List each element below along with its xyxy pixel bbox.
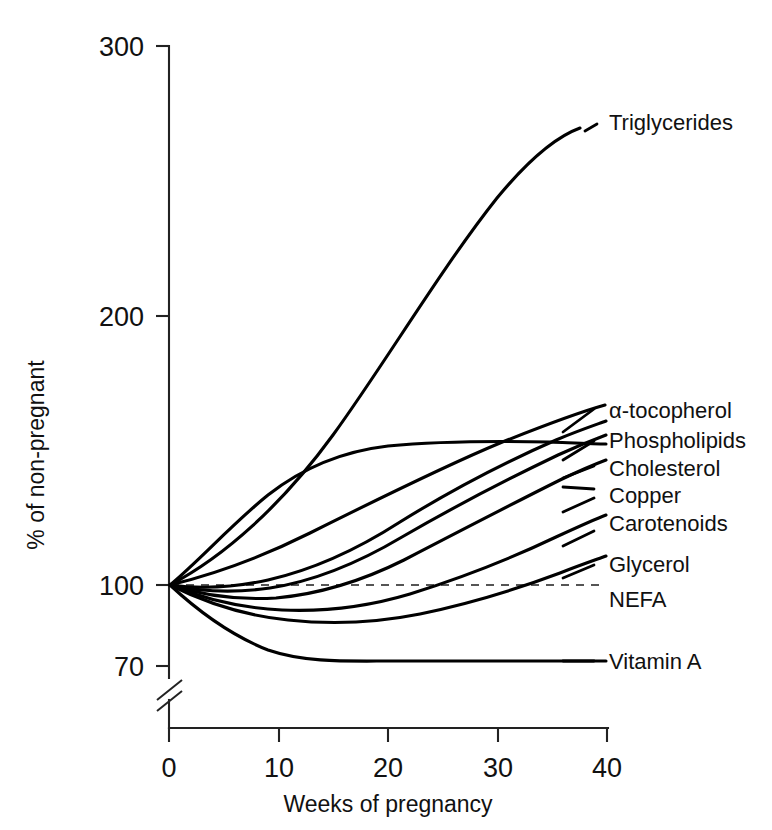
y-axis-title: % of non-pregnant [23, 360, 49, 550]
series-label-nefa: NEFA [609, 587, 667, 612]
x-axis-title: Weeks of pregnancy [283, 791, 493, 817]
series-label-carotenoids: Carotenoids [609, 511, 728, 536]
x-tick-label-40: 40 [592, 753, 622, 783]
series-label-cholesterol: Cholesterol [609, 456, 720, 481]
series-label-vitamin-a: Vitamin A [609, 649, 702, 674]
y-tick-label-100: 100 [99, 571, 144, 601]
leader-triglycerides [585, 124, 597, 131]
series-label-glycerol: Glycerol [609, 552, 690, 577]
series-curves [170, 128, 606, 661]
y-tick-label-200: 200 [99, 302, 144, 332]
y-tick-label-70: 70 [114, 652, 144, 682]
y-tick-label-300: 300 [99, 32, 144, 62]
series-label-group: Triglycerides α-tocopherol Phospholipids… [609, 110, 746, 674]
curve-tocopherol [170, 405, 605, 585]
curve-triglycerides [170, 128, 580, 585]
x-tick-label-0: 0 [161, 753, 176, 783]
leader-cholesterol [563, 466, 594, 478]
leader-copper [563, 487, 594, 489]
series-label-triglycerides: Triglycerides [609, 110, 733, 135]
x-tick-label-10: 10 [264, 753, 294, 783]
series-label-copper: Copper [609, 483, 681, 508]
line-chart: 300 200 100 70 0 10 20 30 40 Weeks of pr… [0, 0, 772, 830]
leader-carotenoids [563, 498, 594, 512]
figure-container: 300 200 100 70 0 10 20 30 40 Weeks of pr… [0, 0, 772, 830]
x-tick-label-30: 30 [483, 753, 513, 783]
label-leader-lines [563, 124, 597, 661]
series-label-phospholipids: Phospholipids [609, 428, 746, 453]
axis-group [156, 46, 608, 742]
x-tick-label-20: 20 [373, 753, 403, 783]
series-label-tocopherol: α-tocopherol [609, 398, 732, 423]
tick-label-group: 300 200 100 70 0 10 20 30 40 [99, 32, 622, 783]
